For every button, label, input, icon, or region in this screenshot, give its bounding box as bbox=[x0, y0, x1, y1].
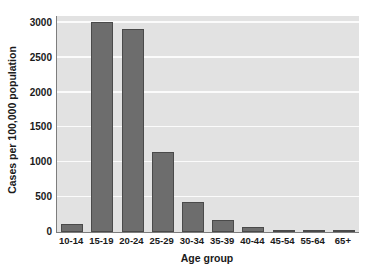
x-axis-tick-label: 25-29 bbox=[147, 234, 177, 248]
bar bbox=[122, 29, 144, 232]
x-axis-tick-label: 40-44 bbox=[237, 234, 267, 248]
y-axis-tick-label: 0 bbox=[18, 227, 52, 237]
y-axis-tick-label: 1000 bbox=[18, 157, 52, 167]
bar bbox=[333, 230, 355, 232]
y-axis-tick-label: 2500 bbox=[18, 53, 52, 63]
y-axis-tick-label: 2000 bbox=[18, 88, 52, 98]
bar bbox=[152, 152, 174, 232]
y-axis-tick-label: 500 bbox=[18, 192, 52, 202]
bar bbox=[273, 230, 295, 232]
bar-chart-figure: Cases per 100,000 population 05001000150… bbox=[0, 0, 370, 278]
x-axis-tick-label: 45-54 bbox=[267, 234, 297, 248]
y-axis-title-text: Cases per 100,000 population bbox=[6, 46, 18, 194]
bar bbox=[91, 22, 113, 232]
x-axis-tick-label: 20-24 bbox=[116, 234, 146, 248]
bar bbox=[182, 202, 204, 232]
bar-series bbox=[57, 16, 359, 232]
x-axis-title: Age group bbox=[56, 252, 358, 264]
x-axis-tick-label: 30-34 bbox=[177, 234, 207, 248]
x-axis-tick-labels: 10-1415-1920-2425-2930-3435-3940-4445-54… bbox=[56, 234, 358, 250]
y-axis-tick-label: 1500 bbox=[18, 122, 52, 132]
x-axis-tick-label: 65+ bbox=[328, 234, 358, 248]
y-axis-tick-label: 3000 bbox=[18, 18, 52, 28]
x-axis-tick-label: 10-14 bbox=[56, 234, 86, 248]
bar bbox=[303, 230, 325, 232]
x-axis-tick-label: 35-39 bbox=[207, 234, 237, 248]
x-axis-tick-label: 55-64 bbox=[298, 234, 328, 248]
bar bbox=[212, 220, 234, 232]
bar bbox=[242, 227, 264, 232]
plot-area bbox=[56, 16, 359, 233]
bar bbox=[61, 224, 83, 232]
x-axis-tick-label: 15-19 bbox=[86, 234, 116, 248]
y-axis-tick-labels: 050010001500200025003000 bbox=[18, 0, 52, 278]
